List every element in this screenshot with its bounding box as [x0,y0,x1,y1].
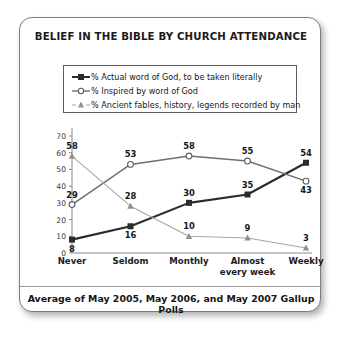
line-chart-svg: 0102030405060708163035542953585543582810… [20,118,322,273]
legend-item-label: % Inspired by word of God [91,85,198,97]
svg-text:16: 16 [125,230,137,240]
svg-text:40: 40 [56,182,66,191]
x-axis-tick-label: Never [58,256,87,267]
svg-text:3: 3 [303,233,309,243]
filled-square-marker [71,71,91,83]
svg-text:29: 29 [66,190,78,200]
legend-item-label: % Actual word of God, to be taken litera… [91,71,262,83]
svg-text:10: 10 [183,221,195,231]
svg-text:55: 55 [242,146,254,156]
svg-text:10: 10 [56,232,66,241]
open-circle-marker [71,85,91,97]
x-axis-tick-label: Weekly [288,256,323,267]
filled-triangle-marker [71,99,91,111]
svg-text:53: 53 [125,149,137,159]
svg-text:8: 8 [69,244,75,254]
legend-item: % Inspired by word of God [71,84,296,97]
svg-text:60: 60 [56,149,66,158]
x-axis-tick-labels: NeverSeldomMonthlyAlmost every weekWeekl… [20,256,322,288]
page-title: BELIEF IN THE BIBLE BY CHURCH ATTENDANCE [20,31,322,42]
svg-text:54: 54 [300,148,312,158]
x-axis-tick-label: Almost every week [220,256,275,277]
chart-plot-area: 0102030405060708163035542953585543582810… [20,118,322,273]
legend-item: % Actual word of God, to be taken litera… [71,70,296,83]
svg-text:28: 28 [125,191,137,201]
footer-divider [20,286,322,287]
svg-text:30: 30 [183,188,195,198]
screenshot-root: BELIEF IN THE BIBLE BY CHURCH ATTENDANCE… [0,0,345,339]
legend-item: % Ancient fables, history, legends recor… [71,98,296,111]
svg-text:58: 58 [66,141,78,151]
chart-card: BELIEF IN THE BIBLE BY CHURCH ATTENDANCE… [19,17,321,312]
chart-source-note: Average of May 2005, May 2006, and May 2… [20,293,322,315]
svg-text:43: 43 [300,185,312,195]
svg-text:35: 35 [242,180,254,190]
svg-text:70: 70 [56,132,66,141]
svg-text:20: 20 [56,216,66,225]
svg-text:58: 58 [183,141,195,151]
svg-text:9: 9 [245,223,251,233]
svg-text:50: 50 [56,165,66,174]
x-axis-tick-label: Seldom [113,256,149,267]
svg-text:30: 30 [56,199,66,208]
x-axis-tick-label: Monthly [169,256,208,267]
legend-item-label: % Ancient fables, history, legends recor… [91,99,300,111]
chart-legend: % Actual word of God, to be taken litera… [63,65,297,113]
